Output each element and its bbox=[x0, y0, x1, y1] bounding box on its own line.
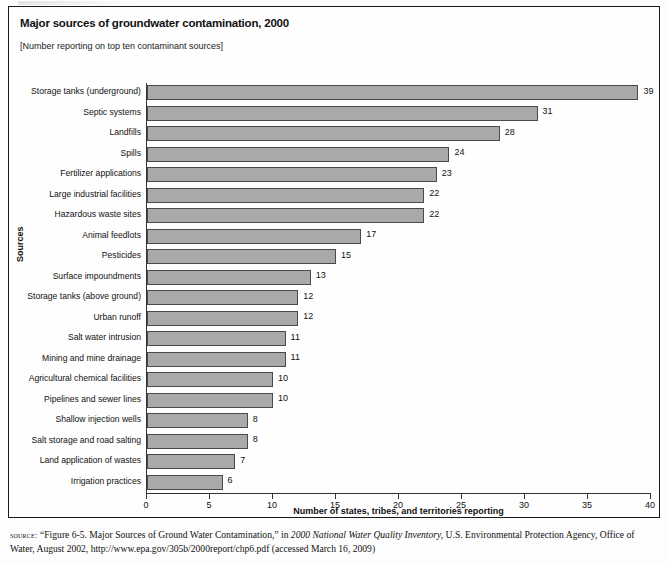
x-tick bbox=[524, 494, 525, 499]
bar bbox=[147, 331, 286, 346]
bar-row: Urban runoff12 bbox=[147, 309, 651, 330]
bar bbox=[147, 352, 286, 367]
x-tick bbox=[146, 494, 147, 499]
bar-value-label: 31 bbox=[543, 106, 553, 116]
bar bbox=[147, 249, 336, 264]
bar-row: Fertilizer applications23 bbox=[147, 165, 651, 186]
category-label: Large industrial facilities bbox=[49, 189, 141, 199]
scan-artifact bbox=[18, 1, 138, 5]
bar bbox=[147, 208, 424, 223]
bar-row: Salt storage and road salting8 bbox=[147, 432, 651, 453]
bar bbox=[147, 270, 311, 285]
bar bbox=[147, 167, 437, 182]
bar-value-label: 24 bbox=[454, 147, 464, 157]
bar-value-label: 8 bbox=[253, 414, 258, 424]
bar-value-label: 22 bbox=[429, 209, 439, 219]
figure-subtitle: [Number reporting on top ten contaminant… bbox=[20, 41, 223, 51]
x-tick bbox=[272, 494, 273, 499]
y-axis-title: Sources bbox=[15, 226, 25, 262]
bar-row: Spills24 bbox=[147, 145, 651, 166]
bar-row: Surface impoundments13 bbox=[147, 268, 651, 289]
category-label: Spills bbox=[120, 148, 141, 158]
x-tick bbox=[209, 494, 210, 499]
category-label: Agricultural chemical facilities bbox=[29, 373, 141, 383]
bar bbox=[147, 475, 223, 490]
bar-value-label: 17 bbox=[366, 229, 376, 239]
bar bbox=[147, 413, 248, 428]
bar-value-label: 39 bbox=[643, 86, 653, 96]
category-label: Pesticides bbox=[102, 250, 141, 260]
category-label: Surface impoundments bbox=[53, 271, 141, 281]
category-label: Septic systems bbox=[83, 107, 141, 117]
x-tick bbox=[650, 494, 651, 499]
bar bbox=[147, 147, 449, 162]
bar-value-label: 10 bbox=[278, 393, 288, 403]
bar-value-label: 15 bbox=[341, 250, 351, 260]
category-label: Salt storage and road salting bbox=[32, 435, 141, 445]
bar-row: Agricultural chemical facilities10 bbox=[147, 370, 651, 391]
bar-value-label: 11 bbox=[291, 352, 300, 362]
category-label: Landfills bbox=[109, 127, 141, 137]
category-label: Mining and mine drainage bbox=[42, 353, 141, 363]
bar-value-label: 23 bbox=[442, 168, 452, 178]
x-tick bbox=[587, 494, 588, 499]
bar-row: Salt water intrusion11 bbox=[147, 329, 651, 350]
category-label: Animal feedlots bbox=[82, 230, 141, 240]
bar-value-label: 22 bbox=[429, 188, 439, 198]
bar bbox=[147, 85, 638, 100]
bar bbox=[147, 188, 424, 203]
bar-row: Shallow injection wells8 bbox=[147, 411, 651, 432]
category-label: Urban runoff bbox=[93, 312, 141, 322]
source-note: source: “Figure 6-5. Major Sources of Gr… bbox=[10, 528, 660, 555]
category-label: Storage tanks (above ground) bbox=[27, 291, 141, 301]
bar bbox=[147, 434, 248, 449]
bar-value-label: 6 bbox=[228, 475, 233, 485]
bar-row: Irrigation practices6 bbox=[147, 473, 651, 494]
bar-value-label: 12 bbox=[303, 311, 313, 321]
source-italic-title: 2000 National Water Quality Inventory, bbox=[291, 529, 443, 540]
bar-row: Storage tanks (above ground)12 bbox=[147, 288, 651, 309]
figure-container: Major sources of groundwater contaminati… bbox=[8, 6, 660, 518]
bar-row: Pesticides15 bbox=[147, 247, 651, 268]
source-text-1: “Figure 6-5. Major Sources of Ground Wat… bbox=[38, 529, 291, 540]
bar bbox=[147, 106, 538, 121]
bar-row: Landfills28 bbox=[147, 124, 651, 145]
bar bbox=[147, 393, 273, 408]
bar bbox=[147, 454, 235, 469]
x-tick bbox=[461, 494, 462, 499]
bar-series: Storage tanks (underground)39Septic syst… bbox=[147, 83, 651, 493]
bar bbox=[147, 290, 298, 305]
page-title: Major sources of groundwater contaminati… bbox=[20, 17, 289, 29]
figure-page: Major sources of groundwater contaminati… bbox=[0, 0, 669, 565]
bar-value-label: 28 bbox=[505, 127, 515, 137]
bar-value-label: 13 bbox=[316, 270, 326, 280]
bar bbox=[147, 126, 500, 141]
category-label: Fertilizer applications bbox=[60, 168, 141, 178]
bar-value-label: 11 bbox=[291, 332, 300, 342]
bar-row: Storage tanks (underground)39 bbox=[147, 83, 651, 104]
category-label: Land application of wastes bbox=[40, 455, 141, 465]
bar-row: Mining and mine drainage11 bbox=[147, 350, 651, 371]
bar-row: Large industrial facilities22 bbox=[147, 186, 651, 207]
bar-row: Animal feedlots17 bbox=[147, 227, 651, 248]
bar-value-label: 8 bbox=[253, 434, 258, 444]
bar bbox=[147, 372, 273, 387]
category-label: Storage tanks (underground) bbox=[31, 86, 141, 96]
bar-value-label: 12 bbox=[303, 291, 313, 301]
bar-row: Septic systems31 bbox=[147, 104, 651, 125]
bar bbox=[147, 311, 298, 326]
x-tick bbox=[335, 494, 336, 499]
bar-row: Pipelines and sewer lines10 bbox=[147, 391, 651, 412]
bar bbox=[147, 229, 361, 244]
category-label: Hazardous waste sites bbox=[55, 209, 141, 219]
category-label: Shallow injection wells bbox=[55, 414, 141, 424]
x-axis-title: Number of states, tribes, and territorie… bbox=[146, 506, 651, 516]
bar-row: Hazardous waste sites22 bbox=[147, 206, 651, 227]
x-tick bbox=[398, 494, 399, 499]
bar-value-label: 10 bbox=[278, 373, 288, 383]
source-label: source: bbox=[10, 530, 38, 540]
category-label: Salt water intrusion bbox=[68, 332, 141, 342]
category-label: Pipelines and sewer lines bbox=[44, 394, 141, 404]
bar-row: Land application of wastes7 bbox=[147, 452, 651, 473]
category-label: Irrigation practices bbox=[71, 476, 141, 486]
